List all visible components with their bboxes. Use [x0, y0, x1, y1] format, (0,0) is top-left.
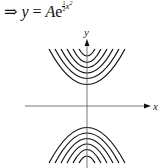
x-axis-arrow-icon	[144, 104, 151, 109]
y-axis-label: y	[83, 26, 89, 38]
solution-curves-figure: x y	[0, 0, 161, 168]
y-axis-arrow-icon	[85, 39, 90, 46]
x-axis-label: x	[152, 100, 158, 112]
